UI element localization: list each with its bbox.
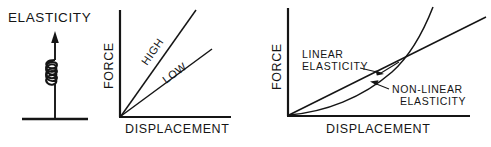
right-chart-label-nonlinear-line2: ELASTICITY (400, 95, 466, 107)
middle-chart-label-high: HIGH (139, 36, 166, 67)
chart-nonlinear-comparison: LINEAR ELASTICITY NON-LINEAR ELASTICITY … (270, 7, 486, 136)
spring-arrow-head (51, 31, 59, 43)
right-chart-x-axis-label: DISPLACEMENT (326, 122, 430, 136)
right-chart-label-linear-line2: ELASTICITY (302, 60, 368, 72)
right-chart-label-linear-line1: LINEAR (302, 48, 344, 60)
right-chart-y-axis-label: FORCE (270, 43, 284, 90)
middle-chart-y-axis-label: FORCE (102, 42, 116, 89)
page-title: ELASTICITY (8, 10, 91, 25)
spring-coil-diagram (22, 31, 88, 119)
right-chart-leader-linear-arrowhead (376, 70, 385, 75)
elasticity-figure: ELASTICITY HIGH (0, 0, 491, 147)
right-chart-label-nonlinear-line1: NON-LINEAR (392, 83, 463, 95)
middle-chart-series-high (121, 10, 196, 116)
middle-chart-x-axis-label: DISPLACEMENT (125, 122, 229, 136)
chart-linear-comparison: HIGH LOW FORCE DISPLACEMENT (102, 10, 231, 136)
middle-chart-label-low: LOW (160, 60, 189, 86)
figure-canvas: ELASTICITY HIGH (0, 0, 491, 147)
